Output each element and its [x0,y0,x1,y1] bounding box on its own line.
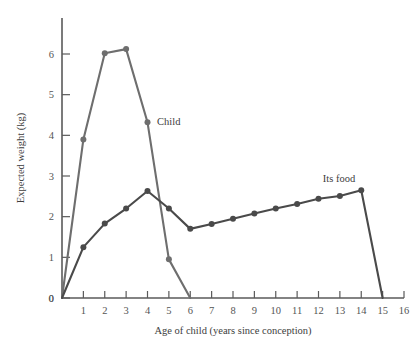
data-point [316,196,322,202]
x-tick-label: 13 [335,305,346,316]
x-tick-label: 8 [230,305,235,316]
data-point [209,221,215,227]
y-tick-label: 5 [49,89,54,100]
x-tick-label: 10 [271,305,282,316]
data-point [273,206,279,212]
series-annotation-child: Child [157,116,181,127]
x-tick-label: 0 [48,293,53,304]
data-point [80,244,86,250]
y-tick-label: 6 [49,49,54,60]
data-point [80,136,86,142]
x-tick-label: 1 [81,305,86,316]
chart-container: 0123456 012345678910111213141516 Child I… [0,0,418,351]
x-tick-label: 5 [166,305,171,316]
series-annotation-its-food: Its food [323,173,356,184]
y-tick-label: 1 [49,252,54,263]
x-tick-label: 7 [209,305,214,316]
x-tick-label: 11 [292,305,302,316]
y-axis-title: Expected weight (kg) [15,112,27,203]
x-axis-ticks: 012345678910111213141516 [48,291,409,316]
data-point [187,226,193,232]
x-tick-label: 4 [145,305,151,316]
x-tick-label: 12 [313,305,324,316]
data-point [251,210,257,216]
data-point [358,187,364,193]
data-point [230,216,236,222]
data-point [145,119,151,125]
x-tick-label: 15 [377,305,388,316]
y-tick-label: 4 [49,130,55,141]
x-tick-label: 2 [102,305,107,316]
data-point [102,50,108,56]
x-axis-title: Age of child (years since conception) [154,325,312,337]
data-point [337,193,343,199]
x-tick-label: 14 [356,305,367,316]
data-point [102,221,108,227]
series-its-food [62,187,383,298]
data-point [294,201,300,207]
data-point [123,206,129,212]
series-child [62,46,190,298]
data-point [145,188,151,194]
x-tick-label: 9 [252,305,257,316]
data-point [123,46,129,52]
x-tick-label: 3 [124,305,129,316]
data-point [166,256,172,262]
y-tick-label: 2 [49,211,54,222]
y-tick-label: 3 [49,171,54,182]
line-chart: 0123456 012345678910111213141516 Child I… [0,0,418,351]
x-tick-label: 16 [399,305,410,316]
series-line [62,190,383,298]
data-point [166,206,172,212]
x-tick-label: 6 [188,305,193,316]
